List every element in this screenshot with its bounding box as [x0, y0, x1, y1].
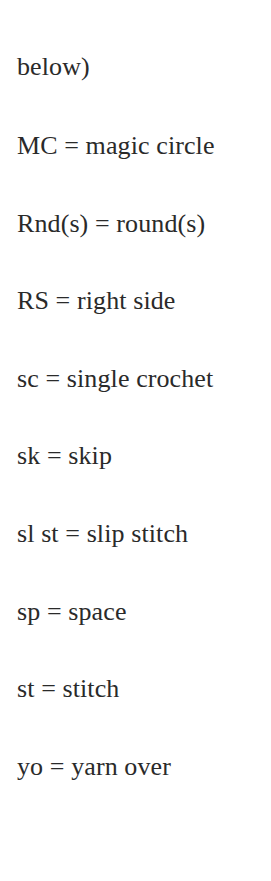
abbreviation-st: st = stitch: [17, 674, 119, 704]
abbreviation-sc: sc = single crochet: [17, 364, 213, 394]
text-line-continuation: below): [17, 52, 90, 82]
abbreviation-sk: sk = skip: [17, 441, 112, 471]
abbreviation-mc: MC = magic circle: [17, 131, 215, 161]
abbreviation-rnds: Rnd(s) = round(s): [17, 209, 205, 239]
abbreviation-sl-st: sl st = slip stitch: [17, 519, 188, 549]
abbreviation-rs: RS = right side: [17, 286, 175, 316]
abbreviation-yo: yo = yarn over: [17, 752, 171, 782]
abbreviation-sp: sp = space: [17, 597, 127, 627]
